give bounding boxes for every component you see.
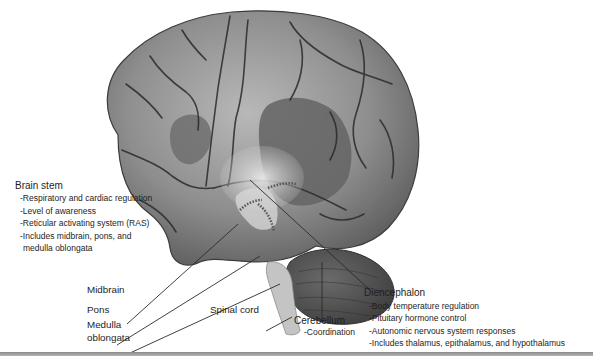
diencephalon-item: -Autonomic nervous system responses — [364, 325, 565, 338]
diencephalon-item: -Pituitary hormone control — [364, 312, 565, 325]
diencephalon-item: -Body temperature regulation — [364, 300, 565, 313]
pons-label: Pons — [87, 304, 109, 316]
brain-stem-title: Brain stem — [15, 179, 152, 192]
cerebellum-item: -Coordination — [294, 326, 355, 339]
brain-stem-label: Brain stem -Respiratory and cardiac regu… — [15, 179, 152, 255]
diencephalon-title: Diencephalon — [364, 287, 565, 300]
cerebellum-title: Cerebellum — [294, 315, 355, 326]
brain-stem-item: -Includes midbrain, pons, and — [15, 230, 152, 243]
medulla-label: Medulla oblongata — [87, 318, 130, 344]
medulla-leader — [130, 284, 280, 353]
spinal-cord-label: Spinal cord — [210, 304, 259, 316]
bottom-rule — [0, 352, 593, 356]
medulla-line2: oblongata — [87, 331, 130, 344]
midbrain-label: Midbrain — [87, 284, 125, 296]
diencephalon-item: -Includes thalamus, epithalamus, and hyp… — [364, 337, 565, 350]
brain-stem-item: -Reticular activating system (RAS) — [15, 217, 152, 230]
diencephalon-label: Diencephalon -Body temperature regulatio… — [364, 287, 565, 350]
medulla-line1: Medulla — [87, 318, 130, 331]
cerebellum-label: Cerebellum -Coordination — [294, 315, 355, 339]
pons-leader — [117, 256, 260, 345]
brain-stem-item: medulla oblongata — [15, 242, 152, 255]
brain-diagram: Brain stem -Respiratory and cardiac regu… — [0, 0, 593, 362]
brain-stem-item: -Level of awareness — [15, 205, 152, 218]
brain-stem-item: -Respiratory and cardiac regulation — [15, 192, 152, 205]
